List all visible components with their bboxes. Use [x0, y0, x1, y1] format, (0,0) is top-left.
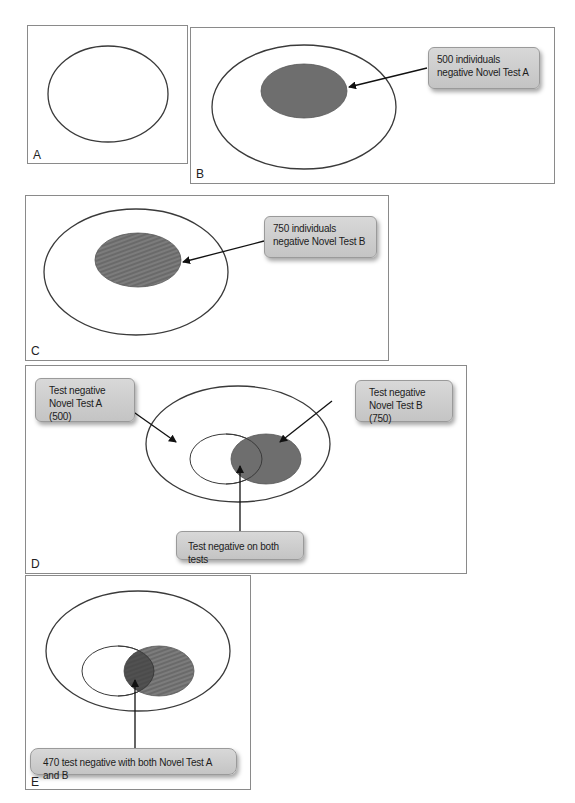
universe-ellipse	[28, 26, 189, 165]
callout-both: 470 test negative with both Novel Test A…	[30, 748, 237, 775]
callout-test-a: 500 individuals negative Novel Test A	[428, 47, 540, 89]
panel-e: 470 test negative with both Novel Test A…	[25, 575, 251, 790]
callout-both: Test negative on both tests	[176, 531, 304, 560]
panel-letter: C	[31, 344, 40, 358]
callout-test-a: Test negative Novel Test A (500)	[35, 378, 135, 422]
panel-letter: A	[33, 148, 41, 162]
panel-a: A	[27, 25, 188, 164]
panel-letter: B	[196, 167, 204, 181]
panel-letter: E	[31, 775, 39, 789]
panel-d: Test negative Novel Test A (500) Test ne…	[25, 365, 467, 574]
panel-letter: D	[31, 557, 40, 571]
panel-c: 750 individuals negative Novel Test B C	[25, 195, 389, 361]
test-b-ellipse	[231, 434, 301, 484]
callout-test-b: 750 individuals negative Novel Test B	[264, 216, 377, 258]
panel-b: 500 individuals negative Novel Test A B	[190, 27, 555, 184]
test-a-ellipse	[261, 64, 347, 118]
callout-test-b: Test negative Novel Test B (750)	[355, 380, 453, 422]
test-b-ellipse	[95, 233, 181, 287]
